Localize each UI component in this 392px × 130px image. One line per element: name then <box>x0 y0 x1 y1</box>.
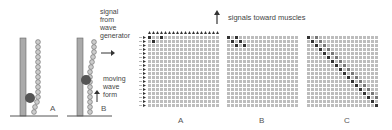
grid-cell <box>196 52 199 55</box>
grid-cell <box>367 48 370 51</box>
grid-cell <box>263 104 266 107</box>
grid-cell <box>355 60 358 63</box>
grid-cell <box>251 84 254 87</box>
grid-cell <box>375 60 378 63</box>
grid-cell <box>311 48 314 51</box>
grid-cell <box>164 48 167 51</box>
grid-cell <box>355 92 358 95</box>
grid-cell <box>355 100 358 103</box>
grid-cell <box>255 92 258 95</box>
grid-cell <box>327 48 330 51</box>
grid-cell <box>359 44 362 47</box>
grid-cell <box>208 96 211 99</box>
moving-wave-text: moving wave form <box>103 75 126 99</box>
grid-cell <box>184 48 187 51</box>
grid-cell <box>283 84 286 87</box>
grid-cell <box>208 64 211 67</box>
grid-cell <box>160 84 163 87</box>
grid-cell <box>200 44 203 47</box>
grid-cell <box>275 60 278 63</box>
grid-cell <box>291 68 294 71</box>
grid-cell <box>168 104 171 107</box>
grid-cell <box>375 76 378 79</box>
grid-cell <box>148 64 151 67</box>
grid-cell <box>148 76 151 79</box>
grid-cell <box>307 84 310 87</box>
grid-cell <box>251 60 254 63</box>
grid-cell <box>279 84 282 87</box>
grid-cell <box>247 80 250 83</box>
grid-cell <box>275 92 278 95</box>
grid-cell <box>311 60 314 63</box>
grid-cell <box>192 96 195 99</box>
grid-cell <box>295 80 298 83</box>
grid-cell <box>156 36 159 39</box>
grid-cell <box>148 68 151 71</box>
grid-cell <box>351 36 354 39</box>
grid-cell <box>327 60 330 63</box>
grid-cell <box>271 60 274 63</box>
grid-cell <box>371 64 374 67</box>
grid-cell <box>168 44 171 47</box>
grid-cell <box>331 64 334 67</box>
grid-cell <box>164 64 167 67</box>
grid-cell <box>311 72 314 75</box>
grid-cell <box>327 40 330 43</box>
grid-cell <box>152 52 155 55</box>
grid-cell <box>271 84 274 87</box>
grid-cell <box>168 88 171 91</box>
grid-cell <box>192 68 195 71</box>
grid-cell <box>283 76 286 79</box>
grid-cell <box>339 84 342 87</box>
grid-cell <box>363 92 366 95</box>
grid-cell <box>192 48 195 51</box>
grid-cell <box>287 100 290 103</box>
grid-cell <box>275 104 278 107</box>
grid-cell <box>216 68 219 71</box>
grid-cell <box>283 80 286 83</box>
grid-cell <box>212 84 215 87</box>
grid-c-label: C <box>344 116 350 125</box>
grid-cell <box>307 100 310 103</box>
grid-cell <box>188 56 191 59</box>
grid-cell <box>331 60 334 63</box>
grid-cell <box>227 72 230 75</box>
grid-cell <box>208 40 211 43</box>
grid-cell <box>251 80 254 83</box>
grid-cell <box>367 72 370 75</box>
grid-cell <box>251 76 254 79</box>
grid-cell <box>172 84 175 87</box>
grid-cell <box>152 104 155 107</box>
grid-cell <box>331 100 334 103</box>
grid-cell <box>216 44 219 47</box>
grid-cell <box>363 80 366 83</box>
grid-cell <box>156 96 159 99</box>
grid-b-label: B <box>259 116 264 125</box>
grid-cell <box>291 52 294 55</box>
grid-cell <box>188 52 191 55</box>
grid-cell <box>339 68 342 71</box>
grid-cell <box>156 88 159 91</box>
grid-cell <box>184 60 187 63</box>
grid-cell <box>180 72 183 75</box>
grid-cell <box>168 100 171 103</box>
grid-cell <box>343 72 346 75</box>
grid-cell <box>204 92 207 95</box>
grid-cell <box>263 100 266 103</box>
grid-cell <box>231 96 234 99</box>
grid-cell <box>295 72 298 75</box>
grid-cell <box>188 64 191 67</box>
grid-cell <box>212 52 215 55</box>
grid-cell <box>164 92 167 95</box>
grid-cell <box>231 40 234 43</box>
grid-cell <box>172 76 175 79</box>
grid-cell <box>227 88 230 91</box>
grid-cell <box>343 100 346 103</box>
grid-cell <box>263 96 266 99</box>
grid-cell <box>331 36 334 39</box>
grid-cell <box>315 76 318 79</box>
grid-cell <box>188 84 191 87</box>
grid-cell <box>255 68 258 71</box>
grid-cell <box>192 52 195 55</box>
grid-cell <box>335 76 338 79</box>
